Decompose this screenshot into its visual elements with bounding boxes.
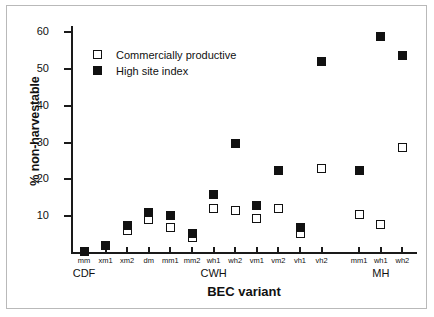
group-label-cwh: CWH bbox=[184, 267, 244, 279]
data-point-high-site-index-4 bbox=[166, 211, 175, 220]
data-point-commercially-productive-6 bbox=[209, 204, 218, 213]
data-point-commercially-productive-9 bbox=[274, 204, 283, 213]
data-point-high-site-index-14 bbox=[398, 51, 407, 60]
x-tick-label-14: wh2 bbox=[387, 256, 417, 265]
x-tick-3 bbox=[148, 247, 150, 253]
y-tick-label-20: 20 bbox=[9, 173, 49, 184]
data-point-commercially-productive-14 bbox=[398, 143, 407, 152]
y-tick-10 bbox=[64, 215, 71, 217]
data-point-commercially-productive-11 bbox=[317, 164, 326, 173]
group-label-mh: MH bbox=[351, 267, 411, 279]
data-point-commercially-productive-12 bbox=[355, 210, 364, 219]
y-tick-label-40: 40 bbox=[9, 100, 49, 111]
data-point-high-site-index-10 bbox=[296, 223, 305, 232]
x-tick-12 bbox=[358, 247, 360, 253]
legend-item-1: High site index bbox=[93, 62, 236, 78]
x-tick-14 bbox=[401, 247, 403, 253]
data-point-high-site-index-12 bbox=[355, 166, 364, 175]
y-tick-60 bbox=[64, 31, 71, 33]
x-tick-10 bbox=[299, 247, 301, 253]
x-tick-6 bbox=[213, 247, 215, 253]
legend-label-1: High site index bbox=[116, 63, 188, 79]
x-tick-5 bbox=[191, 247, 193, 253]
x-tick-4 bbox=[169, 247, 171, 253]
y-tick-20 bbox=[64, 178, 71, 180]
plot-area: % non-harvestable BEC variant 1020304050… bbox=[7, 6, 428, 310]
x-tick-7 bbox=[234, 247, 236, 253]
y-tick-40 bbox=[64, 105, 71, 107]
group-label-cdf: CDF bbox=[54, 267, 114, 279]
filled-square-icon bbox=[93, 66, 102, 75]
x-tick-11 bbox=[321, 247, 323, 253]
data-point-high-site-index-9 bbox=[274, 166, 283, 175]
legend-item-0: Commercially productive bbox=[93, 46, 236, 62]
y-tick-label-30: 30 bbox=[9, 137, 49, 148]
y-tick-30 bbox=[64, 142, 71, 144]
y-tick-label-10: 10 bbox=[9, 210, 49, 221]
x-tick-label-11: vh2 bbox=[307, 256, 337, 265]
data-point-commercially-productive-3 bbox=[144, 215, 153, 224]
open-square-icon bbox=[93, 50, 102, 59]
data-point-commercially-productive-8 bbox=[252, 214, 261, 223]
data-point-commercially-productive-13 bbox=[376, 220, 385, 229]
data-point-high-site-index-0 bbox=[80, 247, 89, 256]
data-point-high-site-index-5 bbox=[188, 229, 197, 238]
y-axis-line bbox=[71, 26, 73, 254]
data-point-high-site-index-13 bbox=[376, 32, 385, 41]
figure-frame: % non-harvestable BEC variant 1020304050… bbox=[6, 5, 427, 309]
x-axis-line bbox=[71, 252, 417, 254]
data-point-high-site-index-2 bbox=[123, 221, 132, 230]
y-tick-label-50: 50 bbox=[9, 63, 49, 74]
data-point-high-site-index-8 bbox=[252, 201, 261, 210]
x-tick-9 bbox=[277, 247, 279, 253]
data-point-high-site-index-7 bbox=[231, 139, 240, 148]
chart-legend: Commercially productiveHigh site index bbox=[93, 46, 236, 78]
y-tick-50 bbox=[64, 68, 71, 70]
x-tick-2 bbox=[126, 247, 128, 253]
x-tick-13 bbox=[380, 247, 382, 253]
data-point-high-site-index-1 bbox=[101, 241, 110, 250]
y-tick-label-60: 60 bbox=[9, 26, 49, 37]
x-tick-8 bbox=[256, 247, 258, 253]
data-point-high-site-index-3 bbox=[144, 208, 153, 217]
data-point-commercially-productive-7 bbox=[231, 206, 240, 215]
data-point-commercially-productive-4 bbox=[166, 223, 175, 232]
data-point-high-site-index-6 bbox=[209, 190, 218, 199]
x-axis-title: BEC variant bbox=[71, 284, 417, 299]
data-point-high-site-index-11 bbox=[317, 57, 326, 66]
legend-label-0: Commercially productive bbox=[116, 47, 236, 63]
